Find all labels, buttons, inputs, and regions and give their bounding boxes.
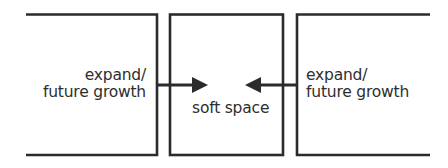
center-box-label: soft space [192,100,269,117]
arrow-right-icon [157,77,208,93]
right-label-line2: future growth [306,84,409,101]
left-box-label: expand/ future growth [43,67,146,101]
arrow-left-icon [245,77,297,93]
right-label-line1: expand/ [306,67,409,84]
left-label-line2: future growth [43,84,146,101]
right-box-label: expand/ future growth [306,67,409,101]
left-label-line1: expand/ [43,67,146,84]
